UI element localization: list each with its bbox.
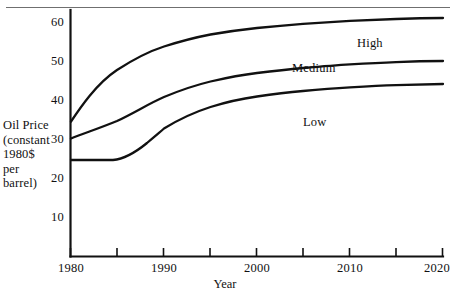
y-tick-label-10: 10 (38, 210, 64, 225)
oil-price-forecast-chart: 60 50 40 30 20 10 1980 1990 2000 2010 20… (0, 0, 460, 297)
y-axis-title-line-3: 1980$ (3, 147, 69, 162)
x-tick-label-1980: 1980 (48, 261, 94, 276)
x-tick-label-2020: 2020 (414, 261, 460, 276)
series-label-medium: Medium (292, 61, 336, 76)
series-label-low: Low (303, 115, 327, 130)
y-tick-label-50: 50 (38, 54, 64, 69)
series-curve-low (71, 84, 443, 160)
y-axis-title-line-2: (constant (3, 133, 69, 148)
series-label-high: High (357, 36, 383, 51)
chart-canvas (0, 0, 460, 297)
y-axis-title-line-1: Oil Price (3, 118, 69, 133)
y-tick-label-60: 60 (38, 15, 64, 30)
x-tick-marks (71, 248, 443, 257)
series-curve-medium (71, 61, 443, 139)
y-tick-label-40: 40 (38, 93, 64, 108)
y-axis-title-line-5: barrel) (3, 176, 69, 191)
x-tick-label-2000: 2000 (234, 261, 280, 276)
x-tick-label-2010: 2010 (327, 261, 373, 276)
y-axis-title: Oil Price (constant 1980$ per barrel) (3, 118, 69, 191)
x-tick-label-1990: 1990 (141, 261, 187, 276)
y-axis-title-line-4: per (3, 162, 69, 177)
x-axis-title: Year (190, 277, 260, 292)
series-curve-high (71, 18, 443, 122)
